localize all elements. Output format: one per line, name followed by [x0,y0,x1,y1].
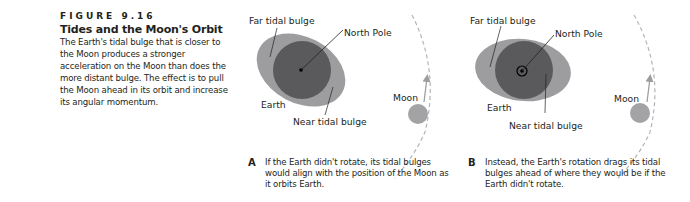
panel-b-text: Instead, the Earth's rotation drags its … [485,157,675,190]
panel-a-orbit-arrow [424,78,427,102]
panel-a-label-earth: Earth [261,99,286,110]
panel-b-label-near-bulge: Near tidal bulge [509,120,583,131]
panel-a-moon [408,104,428,124]
panel-b-orbit-arrow [647,78,650,102]
panel-a-label-far-bulge: Far tidal bulge [249,15,315,26]
panel-b-label-far-bulge: Far tidal bulge [470,15,536,26]
panel-a-text: If the Earth didn't rotate, its tidal bu… [265,157,455,190]
panel-b-earth [495,41,553,99]
panel-a-label-moon: Moon [393,92,418,103]
panel-a-diagram: Far tidal bulge North Pole Earth Near ti… [244,15,430,178]
panel-a-label-north-pole: North Pole [344,27,392,38]
panel-b-label-north-pole: North Pole [555,28,603,39]
panel-a-letter: A [248,157,256,168]
panel-b-moon [630,103,650,123]
panel-b-letter: B [468,157,475,168]
panel-b-label-earth: Earth [487,102,512,113]
panel-a-label-near-bulge: Near tidal bulge [293,116,367,127]
panel-b-label-moon: Moon [614,93,639,104]
panel-b-diagram: Far tidal bulge North Pole Earth Near ti… [470,15,655,178]
